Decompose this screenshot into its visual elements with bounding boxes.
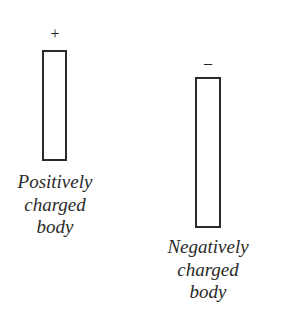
- label-line: charged: [0, 194, 115, 217]
- positive-sign: +: [45, 26, 65, 42]
- label-line: Negatively: [148, 236, 268, 259]
- negative-body-label: Negatively charged body: [148, 236, 268, 304]
- positive-body-label: Positively charged body: [0, 171, 115, 239]
- positively-charged-body: [42, 50, 67, 161]
- negative-sign: –: [198, 55, 218, 71]
- label-line: body: [0, 216, 115, 239]
- label-line: charged: [148, 259, 268, 282]
- label-line: Positively: [0, 171, 115, 194]
- label-line: body: [148, 281, 268, 304]
- negatively-charged-body: [195, 77, 221, 228]
